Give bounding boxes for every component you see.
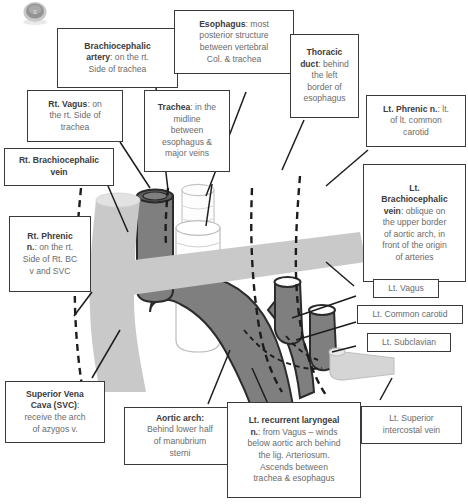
label-body: : on the rt.: [34, 242, 73, 252]
label-rt-brachiocephalic-vein[interactable]: Rt. Brachiocephalic vein: [4, 148, 114, 186]
label-trachea[interactable]: Trachea: in the midline between esophagu…: [144, 90, 230, 172]
label-lt-subclavian[interactable]: Lt. Subclavian: [367, 333, 451, 352]
label-body-2: intercostal vein: [383, 425, 440, 435]
lt-superior-intercostal-vein-shape: [329, 348, 394, 380]
label-head-2: duct: [300, 59, 318, 69]
label-brachiocephalic-artery[interactable]: Brachiocephalic artery: on the rt. Side …: [57, 28, 178, 88]
label-head-2: Brachiocephalic: [381, 194, 447, 204]
label-body-2: the rt. Side of: [49, 110, 100, 120]
label-body-4: front of the origin: [382, 240, 447, 250]
label-head-2: Cava (SVC): [31, 400, 77, 410]
label-thoracic-duct[interactable]: Thoracic duct: behind the left border of…: [290, 34, 359, 118]
label-body-4: Col. & trachea: [207, 54, 261, 64]
label-body-2: of lt. common: [390, 115, 442, 125]
label-body-2: below aortic arch behind: [247, 438, 340, 448]
label-head-2: n.: [250, 427, 258, 437]
label-head: Rt. Phrenic: [27, 231, 72, 241]
label-head: Brachiocephalic: [84, 41, 150, 51]
label-lt-phrenic-nerve[interactable]: Lt. Phrenic n.: lt. of lt. common caroti…: [366, 95, 466, 147]
label-body-2: Side of Rt. BC: [23, 254, 77, 264]
label-body-4: Ascends between: [260, 462, 328, 472]
label-head-3: vein: [384, 206, 401, 216]
label-body-2: posterior structure: [199, 30, 268, 40]
label-head: Lt. Phrenic n.: [383, 104, 437, 114]
label-body: Behind lower half: [147, 424, 213, 434]
label-body: : in the: [190, 102, 216, 112]
label-text: Lt. Vagus: [378, 283, 434, 295]
label-esophagus[interactable]: Esophagus: most posterior structure betw…: [174, 10, 294, 74]
label-body-2: the upper border: [383, 217, 447, 227]
label-body-3: of azygos v.: [32, 424, 77, 434]
label-head: Rt. Brachiocephalic: [19, 155, 99, 165]
label-head: Aortic arch:: [156, 413, 204, 423]
label-lt-common-carotid[interactable]: Lt. Common carotid: [357, 305, 463, 324]
label-lt-brachiocephalic-vein[interactable]: Lt. Brachiocephalic vein: oblique on the…: [363, 164, 466, 282]
logo-watermark: ≡: [18, 1, 52, 27]
label-body-3: border of: [307, 82, 341, 92]
label-body-5: major veins: [165, 148, 209, 158]
label-body-3: between: [171, 125, 204, 135]
diagram-canvas: ≡: [0, 0, 468, 504]
label-body-5: of arteries: [395, 252, 433, 262]
label-head: Lt.: [409, 183, 420, 193]
label-body-2: of manubrium: [154, 436, 207, 446]
label-text: Lt. Subclavian: [372, 337, 446, 349]
svg-text:≡: ≡: [33, 9, 37, 15]
label-body-3: trachea: [61, 122, 90, 132]
label-head: Lt. recurrent laryngeal: [249, 415, 340, 425]
label-body: : from Vagus – winds: [258, 427, 338, 437]
label-head: Trachea: [158, 102, 191, 112]
label-body-5: trachea & esophagus: [253, 473, 334, 483]
label-body: Lt. Superior: [389, 413, 433, 423]
label-text: Lt. Common carotid: [362, 309, 458, 321]
label-body-2: the left: [312, 70, 338, 80]
label-aortic-arch[interactable]: Aortic arch: Behind lower half of manubr…: [124, 407, 236, 465]
label-body-3: between vertebral: [200, 42, 268, 52]
label-body-2: midline: [173, 114, 200, 124]
label-body-2: Side of trachea: [89, 64, 147, 74]
label-body: : lt.: [437, 104, 448, 114]
label-body: : on: [87, 99, 101, 109]
label-superior-vena-cava[interactable]: Superior Vena Cava (SVC): receive the ar…: [5, 381, 105, 443]
label-body: : on the rt.: [110, 52, 149, 62]
label-head-2: vein: [50, 167, 67, 177]
label-body-4: esophagus &: [162, 137, 212, 147]
label-lt-recurrent-laryngeal-nerve[interactable]: Lt. recurrent laryngeal n.: from Vagus –…: [227, 402, 361, 498]
label-body-3: sterni: [169, 448, 190, 458]
label-head: Thoracic: [307, 47, 343, 57]
label-body-4: esophagus: [303, 93, 345, 103]
label-head: Superior Vena: [26, 389, 84, 399]
label-lt-vagus[interactable]: Lt. Vagus: [373, 279, 439, 298]
label-body: : oblique on: [401, 206, 445, 216]
label-body-3: carotid: [403, 127, 429, 137]
label-rt-phrenic-nerve[interactable]: Rt. Phrenic n.: on the rt. Side of Rt. B…: [9, 216, 91, 292]
label-body: : most: [245, 19, 268, 29]
label-body: :: [77, 400, 79, 410]
label-body-3: v and SVC: [29, 266, 70, 276]
label-body-3: the lig. Arteriosum.: [258, 450, 329, 460]
label-body-2: receive the arch: [24, 412, 85, 422]
label-head-2: artery: [86, 52, 110, 62]
label-rt-vagus[interactable]: Rt. Vagus: on the rt. Side of trachea: [27, 90, 123, 142]
label-lt-superior-intercostal-vein[interactable]: Lt. Superior intercostal vein: [361, 406, 462, 444]
label-body: : behind: [318, 59, 349, 69]
label-body-3: of aortic arch, in: [384, 229, 445, 239]
label-head: Rt. Vagus: [48, 99, 87, 109]
label-head: Esophagus: [199, 19, 245, 29]
